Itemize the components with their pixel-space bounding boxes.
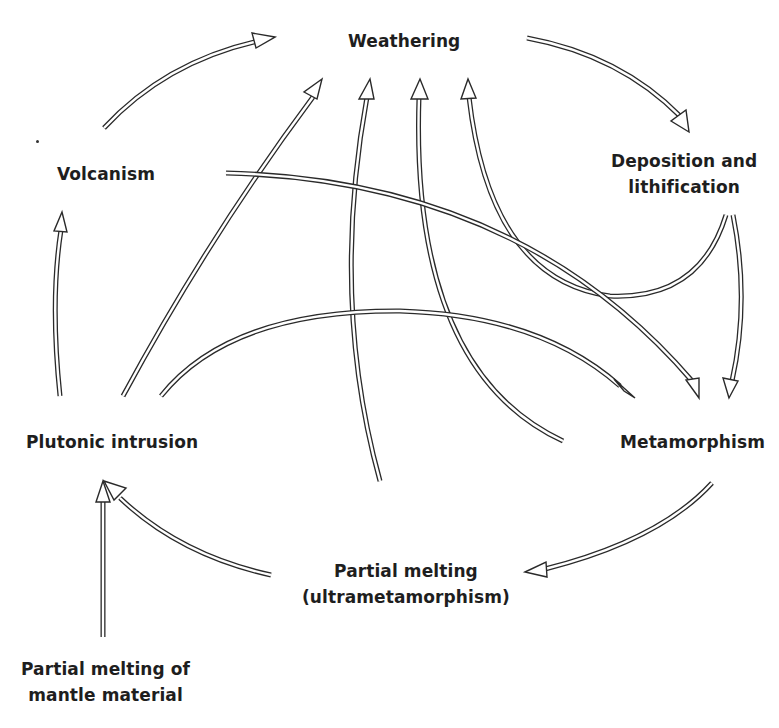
arrow-deposition-to-metamorphism — [723, 215, 741, 398]
node-volcanism: Volcanism — [57, 161, 155, 187]
node-volcanism-label: Volcanism — [57, 161, 155, 187]
arrow-partialmelting-to-weathering — [351, 79, 380, 481]
node-deposition-line2: lithification — [611, 174, 757, 200]
node-mantle-melting: Partial melting of mantle material — [21, 656, 190, 708]
node-weathering-label: Weathering — [348, 28, 460, 54]
node-partial-melting-line2: (ultrametamorphism) — [302, 584, 510, 610]
arrow-weathering-to-deposition — [527, 38, 689, 132]
node-deposition-line1: Deposition and — [611, 148, 757, 174]
arrow-metamorphism-to-weathering — [411, 79, 563, 441]
arrow-mantle-to-plutonic — [96, 481, 110, 637]
node-partial-melting-line1: Partial melting — [302, 558, 510, 584]
arrow-plutonic-to-volcanism — [54, 212, 67, 396]
arrow-partialmelting-to-plutonic — [104, 481, 271, 575]
arrows-layer — [0, 0, 779, 728]
arrow-volcanism-to-metamorphism — [226, 173, 699, 398]
node-mantle-line1: Partial melting of — [21, 656, 190, 682]
node-plutonic-intrusion: Plutonic intrusion — [26, 429, 198, 455]
node-partial-melting: Partial melting (ultrametamorphism) — [302, 558, 510, 610]
node-deposition: Deposition and lithification — [611, 148, 757, 200]
node-mantle-line2: mantle material — [21, 682, 190, 708]
arrow-metamorphism-to-partialmelting — [525, 483, 712, 577]
stray-dot — [36, 140, 39, 143]
rock-cycle-diagram: Weathering Volcanism Deposition and lith… — [0, 0, 779, 728]
arrow-volcanism-to-weathering — [104, 33, 275, 128]
node-weathering: Weathering — [348, 28, 460, 54]
node-plutonic-label: Plutonic intrusion — [26, 429, 198, 455]
arrow-plutonic-to-metamorphism — [161, 311, 635, 398]
node-metamorphism: Metamorphism — [620, 429, 765, 455]
node-metamorphism-label: Metamorphism — [620, 429, 765, 455]
